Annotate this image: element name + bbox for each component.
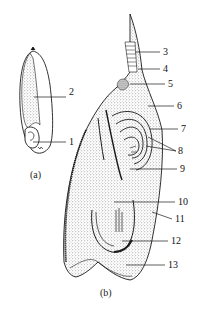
label-13: 13 <box>168 260 178 270</box>
caption-b: (b) <box>100 288 112 298</box>
label-3: 3 <box>163 47 168 57</box>
label-8: 8 <box>178 146 183 156</box>
label-5: 5 <box>168 79 173 89</box>
caption-a: (a) <box>30 170 41 180</box>
label-4: 4 <box>163 64 168 74</box>
label-6: 6 <box>177 101 182 111</box>
label-1: 1 <box>69 137 74 147</box>
label-12: 12 <box>171 236 181 246</box>
label-7: 7 <box>181 124 186 134</box>
label-10: 10 <box>178 197 188 207</box>
label-11: 11 <box>175 214 185 224</box>
grain-whole <box>20 47 53 153</box>
embryo-section <box>64 14 163 280</box>
label-9: 9 <box>180 164 185 174</box>
label-2: 2 <box>69 87 74 97</box>
